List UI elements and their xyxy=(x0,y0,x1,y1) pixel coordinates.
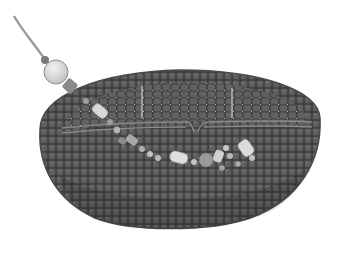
molecular-basket-rendering: Grayscale 3D rendering of a bead-like la… xyxy=(0,0,354,256)
large-sphere xyxy=(44,60,68,84)
tether-line xyxy=(14,16,44,58)
basket-body xyxy=(40,70,320,229)
